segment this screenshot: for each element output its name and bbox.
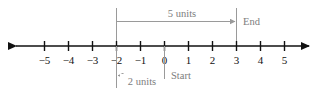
number-line-diagram: 5 units End −5 −4 −3 −2 −1 0 1 [0,0,325,93]
tick-label: 2 [210,54,216,66]
tick-label: −1 [135,54,147,66]
tick-label: −3 [87,54,99,66]
tick-label: 1 [186,54,192,66]
start-label: Start [171,70,191,81]
bottom-measure-label: 2 units [128,76,156,87]
end-label: End [243,16,261,27]
tick-label: 3 [234,54,240,66]
tick-label: 4 [258,54,264,66]
axis-group: −5 −4 −3 −2 −1 0 1 2 3 4 5 [16,41,309,66]
top-annotation-group: 5 units End [117,6,261,46]
tick-label: −4 [63,54,75,66]
top-measure-label: 5 units [168,8,196,19]
bottom-annotation-group: 2 units Start [117,46,191,88]
tick-label: −5 [39,54,51,66]
tick-label: 5 [282,54,288,66]
